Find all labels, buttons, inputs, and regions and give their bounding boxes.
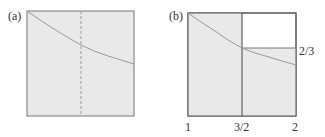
panel-a: (a) [8,9,134,116]
figure-canvas: (a) (b) 2/3 1 3/2 2 [0,0,325,137]
panel-b: (b) 2/3 1 3/2 2 [169,9,314,134]
level-label: 2/3 [299,44,314,58]
panel-a-label: (a) [8,9,21,23]
panel-b-label: (b) [169,9,183,23]
x-tick-3-2: 3/2 [234,120,249,134]
panel-b-right-shaded-rect [242,48,296,116]
x-tick-2: 2 [292,120,298,134]
x-tick-1: 1 [185,120,191,134]
panel-b-left-shaded-rect [188,13,242,116]
